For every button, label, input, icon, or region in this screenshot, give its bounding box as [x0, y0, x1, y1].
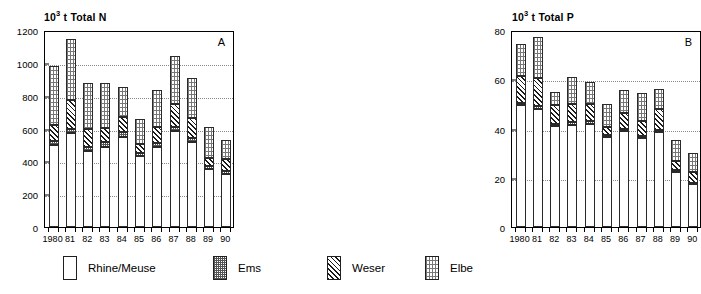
bar-segment-elbe[interactable] [187, 78, 197, 117]
bar-segment-ems[interactable] [654, 130, 664, 132]
bar-segment-rhine-meuse[interactable] [118, 137, 128, 227]
bar-segment-rhine-meuse[interactable] [187, 142, 197, 227]
bar-segment-weser[interactable] [550, 105, 560, 123]
bar-segment-ems[interactable] [204, 166, 214, 168]
bar-segment-rhine-meuse[interactable] [135, 156, 145, 227]
bar-segment-elbe[interactable] [221, 140, 231, 159]
bar-segment-rhine-meuse[interactable] [170, 131, 180, 227]
bar-segment-elbe[interactable] [118, 87, 128, 117]
bar-stack[interactable] [118, 30, 128, 227]
bar-segment-elbe[interactable] [654, 89, 664, 109]
bar-stack[interactable] [654, 30, 664, 227]
bar-segment-weser[interactable] [204, 158, 214, 166]
bar-stack[interactable] [221, 30, 231, 227]
bar-segment-weser[interactable] [585, 104, 595, 121]
bar-segment-elbe[interactable] [637, 93, 647, 121]
bar-segment-rhine-meuse[interactable] [49, 145, 59, 227]
bar-segment-elbe[interactable] [567, 77, 577, 104]
bar-segment-rhine-meuse[interactable] [619, 131, 629, 227]
bar-segment-ems[interactable] [170, 127, 180, 131]
bar-segment-ems[interactable] [516, 103, 526, 105]
bar-segment-weser[interactable] [654, 109, 664, 130]
bar-segment-elbe[interactable] [585, 82, 595, 104]
bar-segment-weser[interactable] [187, 118, 197, 138]
bar-segment-weser[interactable] [100, 128, 110, 143]
bar-segment-weser[interactable] [671, 161, 681, 171]
bar-segment-weser[interactable] [619, 113, 629, 129]
bar-segment-weser[interactable] [118, 117, 128, 132]
bar-segment-elbe[interactable] [688, 153, 698, 171]
bar-segment-weser[interactable] [66, 100, 76, 129]
bar-segment-ems[interactable] [49, 141, 59, 145]
bar-segment-weser[interactable] [688, 172, 698, 183]
bar-segment-rhine-meuse[interactable] [533, 109, 543, 227]
bar-segment-weser[interactable] [221, 159, 231, 171]
bar-segment-elbe[interactable] [671, 140, 681, 161]
bar-segment-weser[interactable] [49, 125, 59, 141]
bar-segment-elbe[interactable] [170, 56, 180, 104]
bar-segment-rhine-meuse[interactable] [654, 132, 664, 227]
bar-segment-rhine-meuse[interactable] [567, 125, 577, 227]
bar-segment-ems[interactable] [619, 129, 629, 131]
bar-segment-ems[interactable] [152, 143, 162, 147]
bar-segment-ems[interactable] [533, 106, 543, 108]
legend-item-ems[interactable]: Ems [213, 256, 261, 280]
bar-segment-rhine-meuse[interactable] [152, 147, 162, 227]
bar-stack[interactable] [187, 30, 197, 227]
bar-segment-ems[interactable] [187, 138, 197, 142]
bar-segment-rhine-meuse[interactable] [688, 184, 698, 227]
bar-segment-elbe[interactable] [602, 104, 612, 127]
bar-stack[interactable] [567, 30, 577, 227]
bar-segment-weser[interactable] [637, 121, 647, 136]
legend-item-rhine-meuse[interactable]: Rhine/Meuse [63, 256, 156, 280]
bar-segment-weser[interactable] [83, 129, 93, 147]
bar-segment-rhine-meuse[interactable] [100, 147, 110, 227]
bar-stack[interactable] [516, 30, 526, 227]
bar-segment-ems[interactable] [66, 129, 76, 134]
bar-segment-elbe[interactable] [550, 92, 560, 106]
bar-segment-rhine-meuse[interactable] [516, 105, 526, 227]
bar-stack[interactable] [204, 30, 214, 227]
bar-segment-rhine-meuse[interactable] [637, 138, 647, 227]
bar-segment-rhine-meuse[interactable] [66, 133, 76, 227]
bar-segment-ems[interactable] [567, 122, 577, 124]
bar-segment-rhine-meuse[interactable] [585, 124, 595, 227]
bar-stack[interactable] [152, 30, 162, 227]
bar-stack[interactable] [602, 30, 612, 227]
bar-segment-elbe[interactable] [66, 39, 76, 100]
bar-stack[interactable] [688, 30, 698, 227]
bar-stack[interactable] [533, 30, 543, 227]
bar-segment-ems[interactable] [585, 121, 595, 123]
bar-segment-elbe[interactable] [204, 127, 214, 158]
bar-stack[interactable] [100, 30, 110, 227]
bar-stack[interactable] [83, 30, 93, 227]
bar-stack[interactable] [49, 30, 59, 227]
bar-stack[interactable] [66, 30, 76, 227]
bar-segment-elbe[interactable] [516, 44, 526, 76]
bar-segment-elbe[interactable] [152, 90, 162, 127]
bar-stack[interactable] [550, 30, 560, 227]
legend-item-weser[interactable]: Weser [327, 256, 385, 280]
bar-segment-elbe[interactable] [100, 83, 110, 128]
bar-stack[interactable] [585, 30, 595, 227]
bar-segment-ems[interactable] [118, 132, 128, 137]
bar-segment-rhine-meuse[interactable] [83, 151, 93, 227]
bar-segment-ems[interactable] [550, 124, 560, 126]
bar-segment-elbe[interactable] [135, 119, 145, 144]
bar-segment-elbe[interactable] [49, 66, 59, 125]
bar-segment-elbe[interactable] [619, 90, 629, 112]
bar-segment-rhine-meuse[interactable] [204, 169, 214, 227]
bar-segment-ems[interactable] [221, 171, 231, 173]
bar-segment-elbe[interactable] [83, 83, 93, 128]
bar-stack[interactable] [619, 30, 629, 227]
bar-segment-ems[interactable] [135, 153, 145, 156]
bar-segment-ems[interactable] [83, 147, 93, 151]
bar-stack[interactable] [671, 30, 681, 227]
bar-segment-rhine-meuse[interactable] [221, 174, 231, 227]
bar-segment-weser[interactable] [602, 127, 612, 134]
bar-segment-weser[interactable] [533, 78, 543, 106]
bar-segment-rhine-meuse[interactable] [602, 137, 612, 227]
bar-segment-weser[interactable] [135, 144, 145, 153]
bar-segment-rhine-meuse[interactable] [550, 126, 560, 227]
bar-segment-ems[interactable] [100, 142, 110, 146]
